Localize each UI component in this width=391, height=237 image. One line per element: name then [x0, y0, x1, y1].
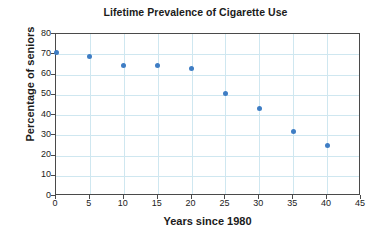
chart-figure: Lifetime Prevalence of Cigarette Use 010… [0, 0, 391, 237]
data-point [121, 63, 126, 68]
gridline-horizontal [56, 54, 359, 55]
y-tick-label: 40 [41, 110, 51, 119]
chart-title: Lifetime Prevalence of Cigarette Use [0, 6, 391, 18]
gridline-vertical [259, 34, 260, 194]
x-tick-mark [224, 195, 225, 199]
x-tick-mark [326, 195, 327, 199]
x-tick-mark [55, 195, 56, 199]
gridline-horizontal [56, 135, 359, 136]
y-tick-label: 70 [41, 49, 51, 58]
x-tick-label: 10 [111, 199, 135, 208]
x-tick-mark [292, 195, 293, 199]
x-tick-label: 20 [179, 199, 203, 208]
x-tick-mark [123, 195, 124, 199]
gridline-horizontal [56, 75, 359, 76]
gridline-vertical [293, 34, 294, 194]
gridline-vertical [124, 34, 125, 194]
x-tick-mark [89, 195, 90, 199]
x-tick-mark [360, 195, 361, 199]
x-tick-label: 45 [348, 199, 372, 208]
x-tick-label: 25 [212, 199, 236, 208]
x-tick-label: 15 [145, 199, 169, 208]
data-point [257, 106, 262, 111]
y-tick-label: 80 [41, 29, 51, 38]
y-tick-label: 60 [41, 69, 51, 78]
gridline-horizontal [56, 176, 359, 177]
x-tick-label: 0 [43, 199, 67, 208]
data-point [87, 54, 92, 59]
x-tick-mark [191, 195, 192, 199]
y-tick-label: 10 [41, 170, 51, 179]
data-point [189, 66, 194, 71]
gridline-horizontal [56, 156, 359, 157]
y-tick-label: 20 [41, 150, 51, 159]
gridline-horizontal [56, 95, 359, 96]
data-point [291, 129, 296, 134]
x-axis-title: Years since 1980 [55, 215, 360, 227]
x-tick-mark [258, 195, 259, 199]
data-point [155, 63, 160, 68]
x-tick-mark [157, 195, 158, 199]
x-axis-tick-labels: 051015202530354045 [0, 199, 391, 211]
x-tick-label: 40 [314, 199, 338, 208]
y-tick-label: 30 [41, 130, 51, 139]
data-point [325, 143, 330, 148]
gridline-horizontal [56, 115, 359, 116]
gridline-vertical [327, 34, 328, 194]
gridline-vertical [158, 34, 159, 194]
x-tick-label: 5 [77, 199, 101, 208]
plot-area [55, 33, 360, 195]
y-axis-title: Percentage of seniors [24, 0, 36, 169]
x-tick-label: 35 [280, 199, 304, 208]
gridline-vertical [192, 34, 193, 194]
data-point [54, 50, 59, 55]
y-tick-label: 50 [41, 89, 51, 98]
gridline-vertical [225, 34, 226, 194]
x-tick-label: 30 [246, 199, 270, 208]
